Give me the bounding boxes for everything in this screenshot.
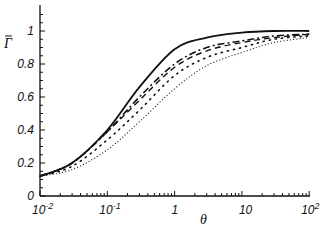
x-tick-label: 1 bbox=[172, 203, 179, 217]
y-tick-label: 0.8 bbox=[17, 57, 34, 71]
y-tick-label: 0 bbox=[27, 189, 34, 203]
y-tick-label: 0.6 bbox=[17, 90, 34, 104]
x-tick-label: 102 bbox=[301, 201, 319, 217]
y-tick-label: 0.2 bbox=[17, 156, 34, 170]
ticks bbox=[40, 15, 309, 197]
x-tick-label: 10 bbox=[239, 203, 253, 217]
curve-solid bbox=[40, 31, 309, 176]
axes bbox=[40, 5, 310, 196]
curve-dashed bbox=[40, 34, 309, 176]
chart: 10-210-111010200.20.40.60.81 Γ θ bbox=[0, 0, 322, 231]
curves bbox=[40, 31, 309, 176]
tick-labels: 10-210-111010200.20.40.60.81 bbox=[17, 24, 319, 217]
x-tick-label: 10-2 bbox=[32, 201, 53, 217]
x-axis-title: θ bbox=[200, 212, 207, 227]
x-tick-label: 10-1 bbox=[99, 201, 120, 217]
y-axis-title: Γ bbox=[3, 36, 13, 51]
y-tick-label: 1 bbox=[27, 24, 34, 38]
curve-sparse-dotted bbox=[40, 36, 309, 176]
y-tick-label: 0.4 bbox=[17, 123, 34, 137]
curve-dotted bbox=[40, 38, 309, 177]
curve-dash-dot bbox=[40, 34, 309, 176]
